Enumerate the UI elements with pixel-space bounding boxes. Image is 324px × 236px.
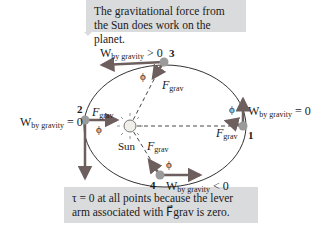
svg-text:Fgrav: Fgrav: [161, 78, 184, 93]
svg-text:Wby gravity < 0: Wby gravity < 0: [166, 179, 229, 194]
svg-text:Fgrav: Fgrav: [91, 105, 114, 120]
diagram: The gravitational force from the Sun doe…: [0, 0, 324, 236]
svg-text:ϕ: ϕ: [229, 103, 235, 115]
planet-1: [239, 122, 248, 131]
svg-text:Fgrav: Fgrav: [215, 126, 238, 141]
svg-text:ϕ: ϕ: [140, 70, 146, 82]
svg-text:ϕ: ϕ: [166, 158, 172, 170]
svg-text:Sun: Sun: [118, 140, 136, 152]
svg-text:1: 1: [248, 129, 254, 141]
svg-text:2: 2: [77, 103, 83, 115]
svg-text:3: 3: [169, 47, 175, 59]
svg-text:Wby gravity > 0: Wby gravity > 0: [100, 46, 163, 61]
svg-text:ϕ: ϕ: [96, 123, 102, 135]
svg-text:Wby gravity = 0: Wby gravity = 0: [248, 104, 311, 119]
svg-text:Fgrav: Fgrav: [146, 139, 169, 154]
planet-4: [156, 171, 165, 180]
svg-text:4: 4: [150, 179, 156, 191]
svg-text:Wby gravity = 0: Wby gravity = 0: [20, 115, 83, 130]
orbit-diagram: Sun 3 Wby gravity > 0 ϕ Fgrav 1 ϕ Wby gr…: [0, 0, 324, 236]
